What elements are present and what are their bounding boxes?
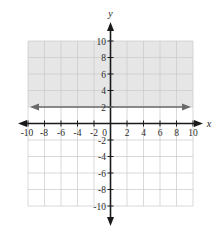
y-tick-label: -4	[98, 152, 106, 162]
y-tick-label: -2	[98, 136, 106, 146]
coordinate-plane-svg: -10 -8 -6 -4 -2 0 2 4 6 8 10 10 8 6 4 2 …	[0, 0, 220, 230]
x-axis-arrow-right	[194, 120, 203, 127]
y-tick-label: -8	[98, 185, 106, 195]
y-tick-label: 10	[97, 37, 107, 47]
y-axis-arrow-down	[107, 217, 114, 226]
y-tick-label: -6	[98, 169, 106, 179]
x-axis-label: x	[206, 118, 212, 129]
x-tick-label: 4	[141, 128, 146, 138]
y-tick-label: -10	[93, 202, 106, 212]
x-tick-label: 6	[158, 128, 163, 138]
y-axis-arrow-up	[107, 22, 114, 31]
y-tick-label: 2	[101, 103, 106, 113]
x-tick-label: -6	[57, 128, 65, 138]
x-tick-label: -8	[40, 128, 48, 138]
coordinate-plane-figure: -10 -8 -6 -4 -2 0 2 4 6 8 10 10 8 6 4 2 …	[0, 0, 220, 230]
y-tick-label: 6	[101, 70, 106, 80]
x-tick-label: -4	[74, 128, 82, 138]
x-tick-label: -2	[90, 128, 98, 138]
x-axis-tick-labels: -10 -8 -6 -4 -2 0 2 4 6 8 10	[21, 128, 198, 138]
y-tick-label: 8	[101, 53, 106, 63]
y-tick-label: 4	[101, 86, 106, 96]
x-tick-label: 2	[125, 128, 130, 138]
y-axis-label: y	[107, 8, 113, 19]
x-tick-label: 8	[174, 128, 179, 138]
x-tick-label: -10	[21, 128, 34, 138]
x-tick-label: 10	[188, 128, 198, 138]
x-axis-arrow-left	[18, 120, 27, 127]
